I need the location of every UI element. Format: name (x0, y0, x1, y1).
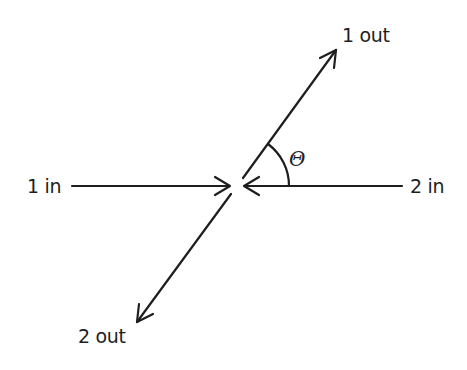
label-2-in: 2 in (410, 177, 444, 196)
scattering-diagram (0, 0, 467, 370)
angle-theta-label: Θ (289, 149, 305, 169)
label-2-out: 2 out (78, 327, 126, 346)
diagram-canvas: 1 out 1 in 2 in 2 out Θ (0, 0, 467, 370)
label-1-out: 1 out (342, 26, 390, 45)
arrow-2-out (137, 194, 231, 322)
arrow-2-in (244, 177, 402, 195)
label-1-in: 1 in (27, 177, 61, 196)
arrow-1-in (72, 177, 230, 195)
angle-arc (268, 144, 289, 186)
